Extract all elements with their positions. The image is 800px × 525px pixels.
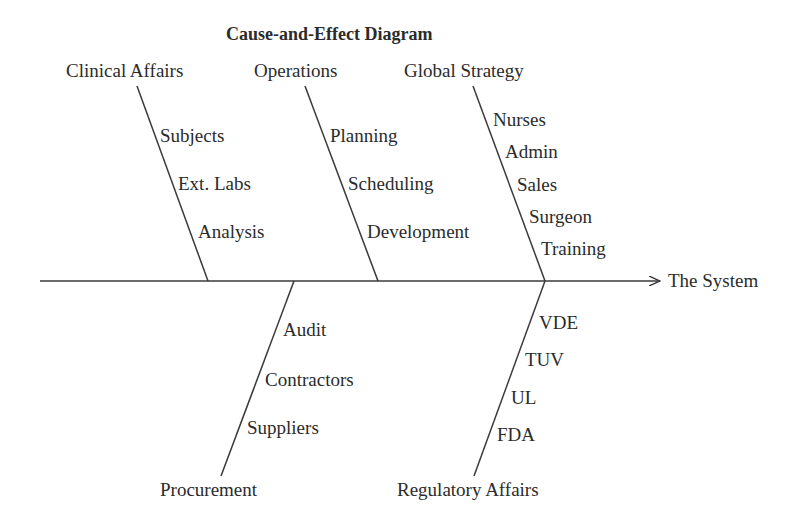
cause-audit: Audit bbox=[283, 320, 326, 339]
cause-nurses: Nurses bbox=[493, 110, 546, 129]
cause-ul: UL bbox=[511, 388, 536, 407]
cause-training: Training bbox=[541, 239, 606, 258]
cause-development: Development bbox=[367, 222, 469, 241]
cause-scheduling: Scheduling bbox=[348, 174, 434, 193]
cause-sales: Sales bbox=[517, 175, 557, 194]
category-global-strategy: Global Strategy bbox=[404, 61, 524, 80]
effect-label: The System bbox=[668, 271, 758, 290]
cause-tuv: TUV bbox=[525, 350, 564, 369]
cause-surgeon: Surgeon bbox=[529, 207, 592, 226]
cause-planning: Planning bbox=[330, 126, 398, 145]
category-operations: Operations bbox=[254, 61, 337, 80]
cause-contractors: Contractors bbox=[265, 370, 354, 389]
category-clinical-affairs: Clinical Affairs bbox=[66, 61, 183, 80]
bone-regulatory-affairs bbox=[474, 281, 545, 476]
cause-analysis: Analysis bbox=[198, 222, 265, 241]
cause-vde: VDE bbox=[539, 313, 578, 332]
category-procurement: Procurement bbox=[160, 480, 257, 499]
cause-subjects: Subjects bbox=[160, 126, 224, 145]
cause-suppliers: Suppliers bbox=[247, 418, 319, 437]
cause-admin: Admin bbox=[505, 142, 558, 161]
cause-fda: FDA bbox=[497, 425, 535, 444]
cause-ext-labs: Ext. Labs bbox=[178, 174, 251, 193]
category-regulatory-affairs: Regulatory Affairs bbox=[397, 480, 539, 499]
